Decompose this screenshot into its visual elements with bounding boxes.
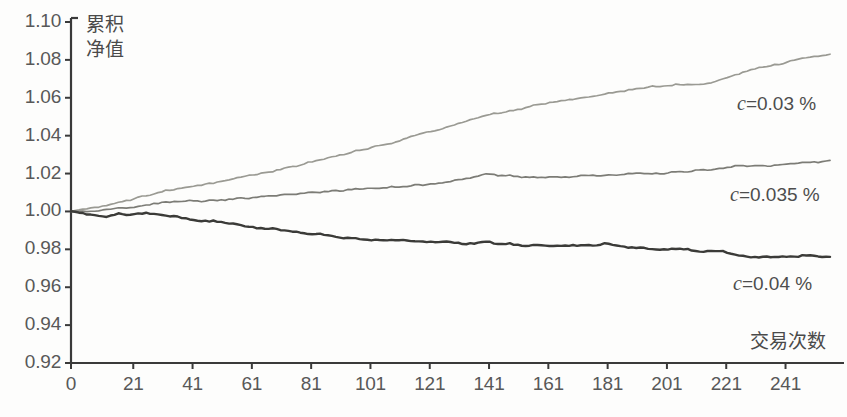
- x-axis-tick-label: 161: [518, 373, 578, 395]
- x-axis-tick-label: 41: [163, 373, 223, 395]
- x-axis-tick-label: 101: [340, 373, 400, 395]
- x-axis-tick-label: 121: [400, 373, 460, 395]
- y-axis-tick-label: 1.10: [0, 10, 61, 32]
- plot-area: [0, 0, 847, 417]
- y-axis-title: 累积 净值: [86, 12, 136, 62]
- series-label-2: c=0.04 %: [733, 272, 812, 295]
- y-axis-tick-label: 0.96: [0, 275, 61, 297]
- x-axis-tick-label: 21: [103, 373, 163, 395]
- x-axis-tick-label: 61: [222, 373, 282, 395]
- axes-group: [65, 18, 844, 369]
- series-label-0: c=0.03 %: [737, 92, 816, 115]
- series-group: [71, 54, 830, 257]
- x-axis-tick-label: 141: [459, 373, 519, 395]
- x-axis-tick-label: 201: [637, 373, 697, 395]
- y-axis-tick-label: 1.02: [0, 162, 61, 184]
- y-axis-tick-label: 1.00: [0, 199, 61, 221]
- y-axis-title-line1: 累积: [86, 12, 136, 37]
- x-axis-tick-label: 181: [578, 373, 638, 395]
- series-label-value: =0.04 %: [742, 273, 812, 294]
- series-label-1: c=0.035 %: [730, 183, 820, 206]
- series-line: [71, 160, 830, 211]
- y-axis-tick-label: 0.98: [0, 237, 61, 259]
- y-axis-title-line2: 净值: [86, 37, 136, 62]
- y-axis-tick-label: 0.94: [0, 313, 61, 335]
- series-label-symbol: c: [733, 272, 742, 294]
- y-axis-tick-label: 0.92: [0, 351, 61, 373]
- series-label-symbol: c: [730, 183, 739, 205]
- series-label-value: =0.03 %: [746, 93, 816, 114]
- cumulative-net-value-chart: 0.920.940.960.981.001.021.041.061.081.10…: [0, 0, 847, 417]
- series-label-value: =0.035 %: [739, 184, 820, 205]
- series-line: [71, 211, 830, 257]
- y-axis-tick-label: 1.04: [0, 124, 61, 146]
- x-axis-tick-label: 221: [696, 373, 756, 395]
- series-line: [71, 54, 830, 211]
- y-axis-tick-label: 1.08: [0, 48, 61, 70]
- x-axis-tick-label: 241: [756, 373, 816, 395]
- y-axis-tick-label: 1.06: [0, 86, 61, 108]
- series-label-symbol: c: [737, 92, 746, 114]
- x-axis-tick-label: 81: [281, 373, 341, 395]
- x-axis-tick-label: 0: [41, 373, 101, 395]
- x-axis-title: 交易次数: [750, 326, 826, 353]
